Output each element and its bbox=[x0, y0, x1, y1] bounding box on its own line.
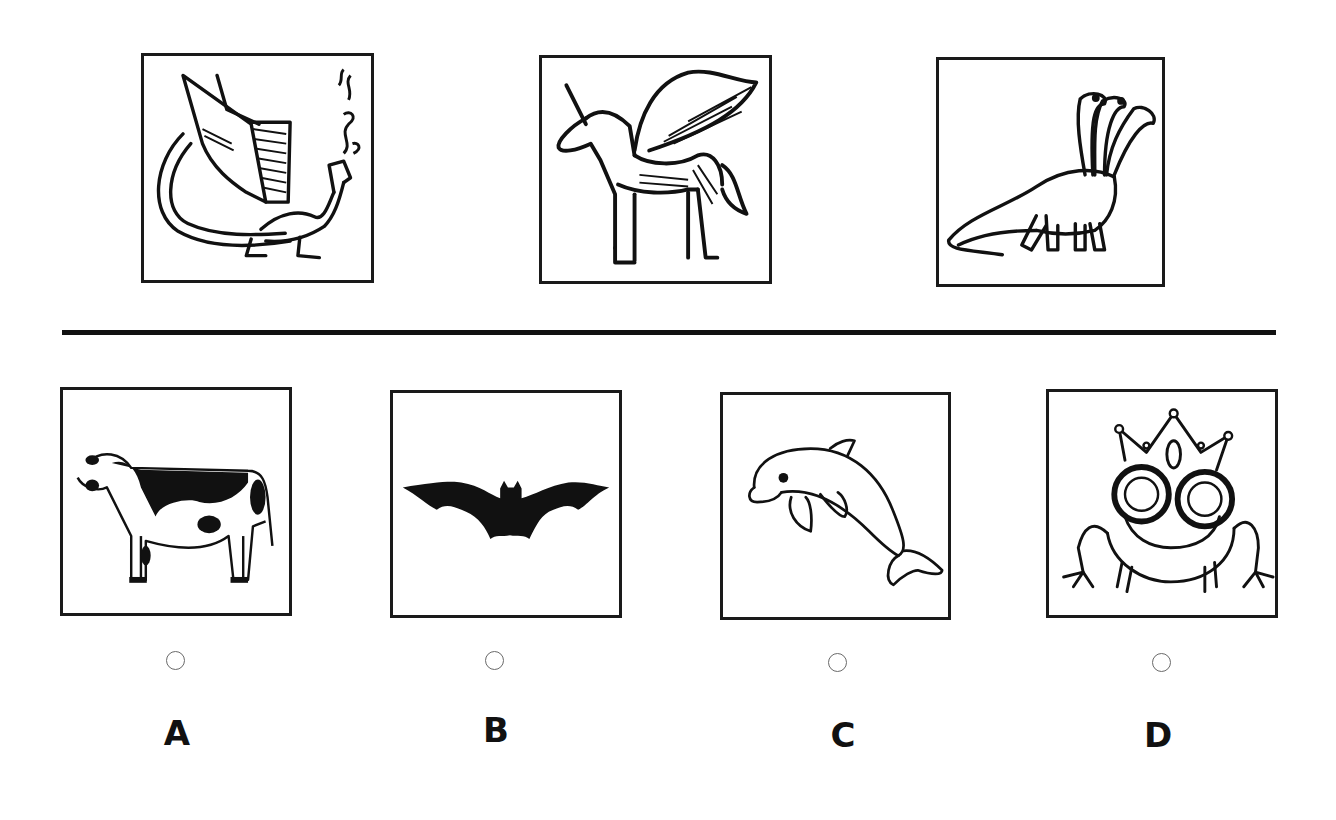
prompt-figure-winged-unicorn bbox=[539, 55, 772, 284]
three-headed-dinosaur-icon bbox=[939, 60, 1162, 284]
winged-unicorn-icon bbox=[542, 58, 769, 281]
option-b-image[interactable] bbox=[390, 390, 622, 618]
winged-dragon-icon bbox=[144, 56, 371, 280]
option-d-image[interactable] bbox=[1046, 389, 1278, 618]
frog-prince-icon bbox=[1049, 392, 1275, 615]
option-b-label: B bbox=[466, 710, 526, 750]
option-a-radio[interactable] bbox=[166, 651, 185, 670]
divider-line bbox=[62, 330, 1276, 335]
bat-icon bbox=[393, 393, 619, 615]
option-c-image[interactable] bbox=[720, 392, 951, 620]
prompt-figure-three-headed-creature bbox=[936, 57, 1165, 287]
prompt-figure-dragon bbox=[141, 53, 374, 283]
option-a-label: A bbox=[147, 713, 207, 753]
option-d-radio[interactable] bbox=[1152, 653, 1171, 672]
option-d-label: D bbox=[1128, 715, 1188, 755]
option-c-radio[interactable] bbox=[828, 653, 847, 672]
dolphin-icon bbox=[723, 395, 948, 617]
option-a-image[interactable] bbox=[60, 387, 292, 616]
option-c-label: C bbox=[813, 715, 873, 755]
option-b-radio[interactable] bbox=[485, 651, 504, 670]
cow-icon bbox=[63, 390, 289, 613]
